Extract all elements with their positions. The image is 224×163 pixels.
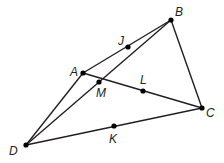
label-C: C [206, 106, 215, 120]
geometry-diagram: A B C D J K L M [0, 0, 224, 163]
point-K [111, 123, 116, 128]
point-C [199, 105, 204, 110]
label-M: M [96, 86, 106, 100]
point-A [80, 70, 85, 75]
label-L: L [140, 73, 147, 87]
label-A: A [69, 65, 78, 79]
point-D [23, 142, 28, 147]
label-J: J [117, 34, 125, 48]
label-D: D [9, 144, 18, 158]
point-L [140, 88, 145, 93]
label-K: K [109, 132, 118, 146]
segment-BC [171, 20, 202, 108]
point-J [125, 44, 130, 49]
point-M [96, 79, 101, 84]
point-B [168, 17, 173, 22]
label-B: B [175, 5, 183, 19]
